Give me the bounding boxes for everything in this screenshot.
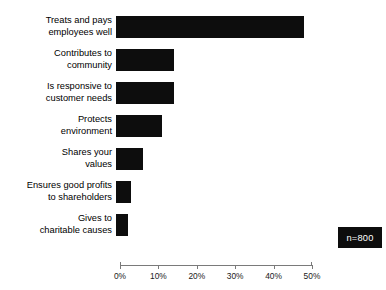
bar-chart: Treats and pays employees well Contribut… <box>0 0 386 290</box>
x-axis-tick <box>120 265 121 269</box>
bar-treats-and-pays-employees-well <box>116 16 304 38</box>
x-axis-tick-label: 50% <box>304 271 321 281</box>
chart-row: Is responsive to customer needs <box>0 76 386 109</box>
category-label: Shares your values <box>0 147 116 169</box>
x-axis-tick <box>312 265 313 269</box>
x-axis-tick <box>158 265 159 269</box>
category-label: Gives to charitable causes <box>0 213 116 235</box>
x-axis-tick-label: 10% <box>150 271 167 281</box>
bar-track <box>116 76 386 109</box>
category-label: Contributes to community <box>0 48 116 70</box>
x-axis-tick-label: 0% <box>114 271 126 281</box>
x-axis-tick <box>197 265 198 269</box>
bar-track <box>116 109 386 142</box>
bar-ensures-good-profits-to-shareholders <box>116 181 131 203</box>
x-axis-tick <box>274 265 275 269</box>
bar-track <box>116 43 386 76</box>
bar-protects-environment <box>116 115 162 137</box>
chart-row: Shares your values <box>0 142 386 175</box>
category-label: Ensures good profits to shareholders <box>0 180 116 202</box>
bar-shares-your-values <box>116 148 143 170</box>
sample-size-badge: n=800 <box>338 227 382 248</box>
bar-is-responsive-to-customer-needs <box>116 82 174 104</box>
x-axis-tick-label: 20% <box>188 271 205 281</box>
chart-row: Contributes to community <box>0 43 386 76</box>
chart-row: Ensures good profits to shareholders <box>0 175 386 208</box>
x-axis-tick <box>235 265 236 269</box>
category-label: Protects environment <box>0 114 116 136</box>
bar-gives-to-charitable-causes <box>116 214 128 236</box>
chart-row: Treats and pays employees well <box>0 10 386 43</box>
bar-track <box>116 10 386 43</box>
x-axis-tick-label: 30% <box>227 271 244 281</box>
x-axis-tick-label: 40% <box>265 271 282 281</box>
category-label: Treats and pays employees well <box>0 15 116 37</box>
category-label: Is responsive to customer needs <box>0 81 116 103</box>
chart-row: Gives to charitable causes <box>0 208 386 241</box>
clipped-title-remnant <box>0 0 386 6</box>
chart-row: Protects environment <box>0 109 386 142</box>
bar-contributes-to-community <box>116 49 174 71</box>
bar-track <box>116 175 386 208</box>
x-axis-line <box>120 265 312 266</box>
chart-rows: Treats and pays employees well Contribut… <box>0 10 386 241</box>
bar-track <box>116 142 386 175</box>
